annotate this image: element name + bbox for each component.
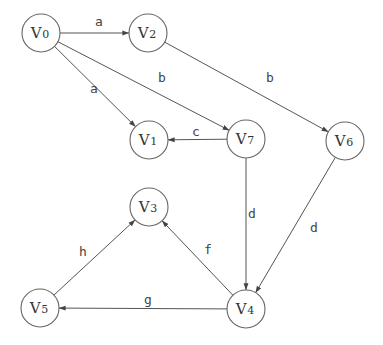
edge-v7-to-v1: c	[168, 124, 227, 140]
node-v7: V7	[227, 120, 265, 158]
edge-label: b	[266, 70, 274, 85]
edge-v2-to-v6: b	[165, 42, 329, 132]
node-v3: V3	[130, 188, 168, 226]
edge-label: d	[310, 220, 318, 235]
edge-label: a	[90, 81, 98, 96]
edge-label: a	[95, 14, 103, 29]
directed-graph-diagram: aabbcddfgh V0V1V2V3V4V5V6V7	[0, 0, 383, 345]
edge-v6-to-v4: d	[256, 157, 336, 292]
edge-label: f	[204, 242, 212, 257]
node-v4: V4	[227, 290, 265, 328]
edge-label: b	[158, 70, 166, 85]
edge-label: c	[192, 124, 200, 139]
edge-label: h	[79, 244, 87, 259]
edge-arrow-line	[162, 221, 233, 295]
nodes-layer: V0V1V2V3V4V5V6V7	[21, 14, 364, 328]
edge-v7-to-v4: d	[246, 158, 256, 290]
edge-v4-to-v5: g	[59, 292, 227, 309]
edges-layer: aabbcddfgh	[54, 14, 335, 309]
node-v2: V2	[129, 14, 167, 52]
node-v5: V5	[21, 289, 59, 327]
edge-arrow-line	[58, 42, 229, 131]
edge-arrow-line	[256, 157, 336, 292]
edge-arrow-line	[165, 42, 329, 132]
edge-label: d	[248, 206, 256, 221]
edge-arrow-line	[54, 220, 135, 295]
edge-arrow-line	[59, 308, 227, 309]
edge-label: g	[144, 292, 152, 307]
node-v0: V0	[22, 14, 60, 52]
edge-v0-to-v7: b	[58, 42, 229, 131]
edge-arrow-line	[168, 139, 227, 140]
edge-v0-to-v1: a	[54, 46, 135, 126]
node-v6: V6	[326, 122, 364, 160]
edge-v0-to-v2: a	[60, 14, 129, 33]
edge-v5-to-v3: h	[54, 220, 135, 295]
edge-v4-to-v3: f	[162, 221, 233, 295]
node-v1: V1	[130, 121, 168, 159]
